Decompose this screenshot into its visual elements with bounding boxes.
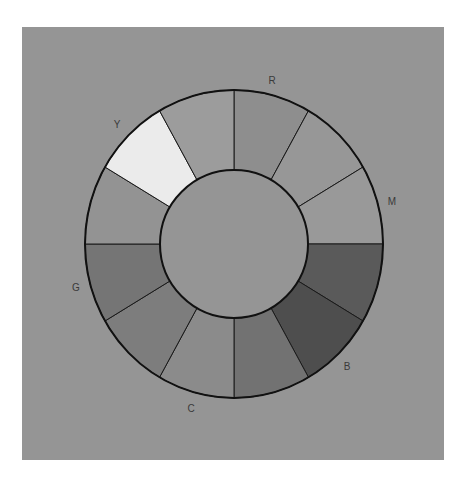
- label-m: M: [388, 196, 396, 207]
- label-y: Y: [114, 119, 121, 130]
- color-wheel-figure: RMBCGY: [0, 0, 467, 485]
- inner-disc: [160, 170, 308, 318]
- label-r: R: [268, 75, 275, 86]
- label-b: B: [344, 361, 351, 372]
- label-g: G: [72, 282, 80, 293]
- label-c: C: [187, 403, 194, 414]
